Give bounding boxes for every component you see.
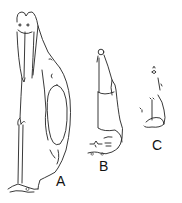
figure-b-drawing: [88, 49, 123, 155]
label-a: A: [56, 174, 65, 188]
figure-a-drawing: [8, 12, 71, 193]
figure-c-drawing: [140, 66, 165, 127]
diagram-canvas: [0, 0, 182, 203]
label-c: C: [152, 138, 162, 152]
label-b: B: [99, 159, 108, 173]
